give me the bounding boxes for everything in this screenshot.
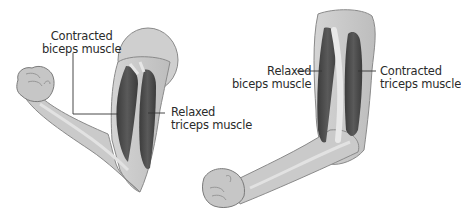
label-relaxed-biceps: Relaxed biceps muscle	[232, 65, 311, 91]
label-relaxed-triceps: Relaxed triceps muscle	[171, 106, 252, 132]
fist	[17, 66, 54, 101]
triceps-muscle	[139, 70, 156, 169]
label-contracted-biceps: Contracted biceps muscle	[42, 30, 121, 56]
label-contracted-triceps: Contracted triceps muscle	[380, 65, 461, 91]
fist	[202, 169, 244, 208]
